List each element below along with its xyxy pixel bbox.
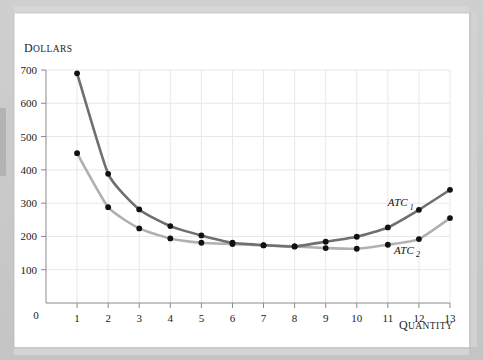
data-point	[136, 207, 142, 213]
data-point	[198, 240, 204, 246]
data-point	[167, 223, 173, 229]
data-point	[416, 236, 422, 242]
data-point	[354, 234, 360, 240]
data-point	[74, 70, 80, 76]
x-tick-label: 1	[74, 312, 80, 324]
x-tick-label: 7	[261, 312, 267, 324]
series-label-text: ATC	[393, 244, 414, 256]
series-label-subscript: 1	[410, 203, 414, 212]
x-tick-label: 5	[199, 312, 205, 324]
x-tick-label: 6	[230, 312, 236, 324]
x-tick-label: 9	[323, 312, 329, 324]
data-point	[198, 233, 204, 239]
data-point	[416, 207, 422, 213]
gridlines	[46, 70, 450, 303]
x-tick-label: 11	[383, 312, 394, 324]
data-point	[74, 150, 80, 156]
data-point	[261, 243, 267, 249]
y-tick-label: 500	[21, 131, 38, 143]
x-tick-label: 8	[292, 312, 298, 324]
figure-page: DOLLARS QUANTITY 01002003004005006007001…	[0, 0, 483, 360]
series-label-text: ATC	[387, 196, 408, 208]
data-point	[323, 245, 329, 251]
chart-canvas: 010020030040050060070012345678910111213 …	[0, 0, 483, 360]
y-tick-label: 700	[21, 64, 38, 76]
x-tick-label: 3	[136, 312, 142, 324]
data-point	[385, 242, 391, 248]
y-tick-label: 0	[33, 309, 39, 321]
data-point	[447, 215, 453, 221]
x-tick-label: 13	[445, 312, 457, 324]
data-point	[105, 204, 111, 210]
series-label-atc2: ATC2	[393, 244, 420, 260]
y-tick-label: 600	[21, 97, 38, 109]
data-point	[323, 239, 329, 245]
x-tick-label: 2	[105, 312, 111, 324]
data-point	[447, 187, 453, 193]
data-point	[136, 226, 142, 232]
data-point	[354, 246, 360, 252]
data-point	[292, 244, 298, 250]
y-tick-label: 300	[21, 197, 38, 209]
series-label-atc1: ATC1	[387, 196, 414, 212]
data-point	[167, 236, 173, 242]
x-tick-label: 10	[351, 312, 363, 324]
y-tick-label: 100	[21, 264, 38, 276]
y-tick-label: 200	[21, 230, 38, 242]
y-tick-label: 400	[21, 164, 38, 176]
data-point	[385, 225, 391, 231]
axes	[41, 70, 450, 308]
data-point	[230, 241, 236, 247]
x-tick-label: 4	[168, 312, 174, 324]
series-label-subscript: 2	[416, 250, 420, 259]
series-annotations: ATC1ATC2	[387, 196, 420, 259]
data-point	[105, 171, 111, 177]
x-tick-label: 12	[413, 312, 424, 324]
